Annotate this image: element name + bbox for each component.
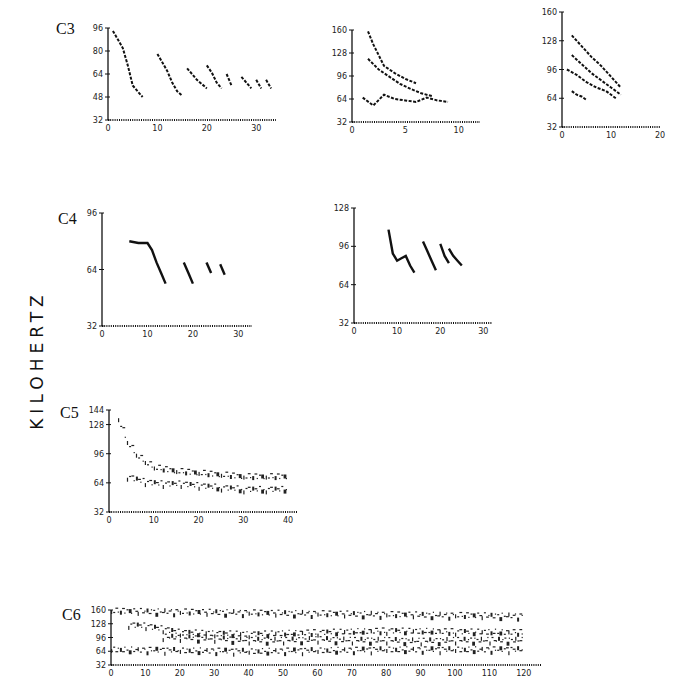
y-tick-label: 64 bbox=[339, 281, 349, 290]
x-tick-label: 0 bbox=[349, 126, 354, 135]
y-tick-label: 96 bbox=[547, 66, 557, 75]
x-tick-label: 10 bbox=[454, 126, 464, 135]
call-trace bbox=[363, 95, 448, 106]
x-tick-label: 10 bbox=[149, 516, 159, 525]
y-tick-label: 160 bbox=[332, 26, 347, 35]
call-trace bbox=[368, 31, 416, 83]
y-tick-label: 96 bbox=[339, 242, 349, 251]
x-tick-label: 110 bbox=[482, 669, 497, 678]
y-tick-label: 160 bbox=[91, 606, 106, 615]
x-tick-label: 0 bbox=[99, 330, 104, 339]
y-tick-label: 32 bbox=[337, 118, 347, 127]
y-tick-label: 80 bbox=[93, 47, 103, 56]
x-tick-label: 20 bbox=[188, 330, 198, 339]
y-tick-label: 160 bbox=[542, 8, 557, 17]
y-tick-label: 64 bbox=[87, 266, 97, 275]
x-tick-label: 20 bbox=[193, 516, 203, 525]
y-tick-label: 144 bbox=[89, 406, 104, 415]
x-tick-label: 0 bbox=[351, 327, 356, 336]
x-tick-label: 20 bbox=[435, 327, 445, 336]
call-trace bbox=[187, 68, 207, 88]
y-tick-label: 64 bbox=[547, 94, 557, 103]
x-tick-label: 0 bbox=[108, 669, 113, 678]
call-trace bbox=[389, 230, 415, 273]
x-tick-label: 10 bbox=[152, 124, 162, 133]
y-tick-label: 32 bbox=[87, 322, 97, 331]
x-tick-label: 30 bbox=[238, 516, 248, 525]
y-tick-label: 32 bbox=[96, 661, 106, 670]
chart-c3-a: 32486480960102030 bbox=[108, 28, 278, 120]
y-axis-label: KILOHERTZ bbox=[22, 280, 52, 440]
x-tick-label: 10 bbox=[140, 669, 150, 678]
y-tick-label: 128 bbox=[542, 37, 557, 46]
x-tick-label: 100 bbox=[447, 669, 462, 678]
chart-c5: 326496128144010203040 bbox=[109, 410, 299, 512]
y-tick-label: 64 bbox=[337, 95, 347, 104]
call-trace bbox=[572, 55, 621, 95]
call-trace bbox=[184, 262, 193, 283]
call-trace bbox=[368, 59, 432, 96]
x-tick-label: 0 bbox=[105, 124, 110, 133]
x-tick-label: 0 bbox=[559, 131, 564, 140]
y-tick-label: 32 bbox=[94, 508, 104, 517]
x-tick-label: 10 bbox=[606, 131, 616, 140]
y-tick-label: 96 bbox=[96, 634, 106, 643]
call-trace bbox=[440, 244, 449, 263]
call-trace bbox=[572, 91, 587, 100]
x-tick-label: 20 bbox=[202, 124, 212, 133]
call-trace bbox=[227, 74, 232, 86]
panel-label-c6: C6 bbox=[62, 606, 81, 624]
chart-c4-a: 3264960102030 bbox=[102, 213, 254, 326]
x-tick-label: 40 bbox=[283, 516, 293, 525]
call-trace bbox=[113, 31, 143, 97]
chart-c4-b: 3264961280102030 bbox=[354, 208, 494, 323]
y-tick-label: 128 bbox=[334, 204, 349, 213]
x-tick-label: 40 bbox=[244, 669, 254, 678]
y-tick-label: 32 bbox=[547, 123, 557, 132]
call-trace bbox=[207, 65, 222, 88]
x-tick-label: 70 bbox=[347, 669, 357, 678]
x-tick-label: 30 bbox=[209, 669, 219, 678]
call-trace bbox=[129, 241, 165, 283]
y-tick-label: 96 bbox=[337, 72, 347, 81]
x-tick-label: 5 bbox=[403, 126, 408, 135]
x-tick-label: 10 bbox=[142, 330, 152, 339]
y-tick-label: 128 bbox=[89, 421, 104, 430]
x-tick-label: 30 bbox=[478, 327, 488, 336]
y-tick-label: 32 bbox=[339, 319, 349, 328]
x-tick-label: 20 bbox=[655, 131, 665, 140]
call-trace bbox=[220, 264, 225, 275]
panel-label-c3: C3 bbox=[56, 20, 75, 38]
x-tick-label: 0 bbox=[106, 516, 111, 525]
x-tick-label: 30 bbox=[233, 330, 243, 339]
x-tick-label: 120 bbox=[516, 669, 531, 678]
y-tick-label: 128 bbox=[91, 620, 106, 629]
x-tick-label: 90 bbox=[416, 669, 426, 678]
x-tick-label: 60 bbox=[312, 669, 322, 678]
y-tick-label: 64 bbox=[94, 479, 104, 488]
x-tick-label: 50 bbox=[278, 669, 288, 678]
y-tick-label: 32 bbox=[93, 116, 103, 125]
y-tick-label: 96 bbox=[94, 450, 104, 459]
x-tick-label: 30 bbox=[251, 124, 261, 133]
call-trace bbox=[207, 262, 212, 273]
call-trace bbox=[423, 242, 436, 271]
y-tick-label: 48 bbox=[93, 93, 103, 102]
call-trace bbox=[256, 80, 261, 89]
panel-label-c4: C4 bbox=[58, 210, 77, 228]
x-tick-label: 80 bbox=[381, 669, 391, 678]
call-trace bbox=[157, 54, 182, 96]
call-trace bbox=[266, 80, 271, 89]
chart-c3-b: 3264961281600510 bbox=[352, 30, 482, 122]
y-tick-label: 96 bbox=[87, 209, 97, 218]
y-tick-label: 128 bbox=[332, 49, 347, 58]
panel-label-c5: C5 bbox=[60, 404, 79, 422]
y-tick-label: 64 bbox=[93, 70, 103, 79]
call-trace bbox=[241, 77, 251, 89]
x-tick-label: 20 bbox=[175, 669, 185, 678]
y-tick-label: 64 bbox=[96, 647, 106, 656]
chart-c3-c: 32649612816001020 bbox=[562, 12, 662, 127]
y-tick-label: 96 bbox=[93, 24, 103, 33]
call-trace bbox=[449, 249, 462, 266]
chart-c6: 3264961281600102030405060708090100110120 bbox=[111, 610, 543, 665]
